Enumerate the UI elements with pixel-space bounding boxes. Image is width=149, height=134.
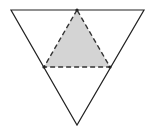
triangle-diagram: [0, 0, 149, 134]
midpoint-dot: [108, 65, 111, 68]
midpoint-dot: [75, 8, 78, 11]
shaded-inner-triangle: [44, 10, 110, 67]
midpoint-dot: [42, 65, 45, 68]
